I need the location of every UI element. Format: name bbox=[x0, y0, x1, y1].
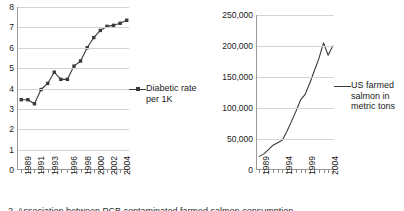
x-tick-label: 1998 bbox=[84, 156, 93, 175]
y-tick-label: 5 bbox=[9, 64, 14, 73]
chart-panel-farmed-salmon: 050,000100,000150,000200,000250,000 1989… bbox=[200, 0, 404, 211]
x-tick bbox=[61, 170, 62, 173]
gridline bbox=[257, 139, 334, 140]
x-tick-label: 1993 bbox=[51, 156, 60, 175]
y-tick-label: 100,000 bbox=[222, 104, 253, 113]
data-point-marker bbox=[66, 78, 69, 81]
y-tick-label: 3 bbox=[9, 105, 14, 114]
y-tick-label: 250,000 bbox=[222, 11, 253, 20]
data-point-marker bbox=[46, 82, 49, 85]
y-tick-label: 50,000 bbox=[227, 135, 253, 144]
y-tick-label: 4 bbox=[9, 84, 14, 93]
data-point-marker bbox=[118, 22, 121, 25]
y-tick-label: 0 bbox=[248, 166, 253, 175]
plot-area-left bbox=[17, 7, 129, 170]
y-tick-label: 150,000 bbox=[222, 73, 253, 82]
data-point-marker bbox=[53, 71, 56, 74]
y-tick-label: 8 bbox=[9, 3, 14, 12]
x-tick-label: 2004 bbox=[331, 156, 340, 175]
x-tick bbox=[48, 170, 49, 173]
data-point-marker bbox=[20, 98, 23, 101]
x-tick bbox=[120, 170, 121, 173]
y-axis-labels-right: 050,000100,000150,000200,000250,000 bbox=[200, 0, 253, 174]
x-tick bbox=[296, 170, 297, 173]
data-point-marker bbox=[125, 19, 128, 22]
x-tick-label: 2004 bbox=[123, 156, 132, 175]
dual-line-chart-figure: 012345678 198919911993199619982000200220… bbox=[0, 0, 404, 211]
gridline bbox=[18, 150, 129, 151]
gridline bbox=[257, 108, 334, 109]
gridline bbox=[18, 89, 129, 90]
legend-label-left: Diabetic rate per 1K bbox=[146, 83, 200, 104]
x-tick bbox=[301, 170, 302, 173]
legend-label-right: US farmed salmon in metric tons bbox=[351, 80, 404, 112]
x-tick bbox=[273, 170, 274, 173]
legend-left: Diabetic rate per 1K bbox=[129, 83, 200, 104]
x-tick bbox=[81, 170, 82, 173]
y-axis-labels-left: 012345678 bbox=[0, 0, 14, 174]
y-tick-label: 7 bbox=[9, 23, 14, 32]
x-tick bbox=[94, 170, 95, 173]
x-tick bbox=[324, 170, 325, 173]
gridline bbox=[18, 129, 129, 130]
legend-line-icon-right bbox=[334, 82, 351, 92]
data-point-marker bbox=[79, 59, 82, 62]
gridline bbox=[18, 68, 129, 69]
y-tick-label: 200,000 bbox=[222, 42, 253, 51]
y-tick-label: 6 bbox=[9, 44, 14, 53]
x-tick bbox=[107, 170, 108, 173]
data-point-marker bbox=[99, 29, 102, 32]
gridline bbox=[18, 27, 129, 28]
figure-caption: 2. Association between PCB contaminated … bbox=[8, 206, 404, 211]
x-tick-label: 2000 bbox=[97, 156, 106, 175]
data-point-marker bbox=[33, 102, 36, 105]
x-tick-label: 1991 bbox=[37, 156, 46, 175]
y-tick-label: 1 bbox=[9, 145, 14, 154]
x-tick-label: 1989 bbox=[24, 156, 33, 175]
y-tick-label: 2 bbox=[9, 125, 14, 134]
x-tick-label: 2002 bbox=[110, 156, 119, 175]
legend-right: US farmed salmon in metric tons bbox=[334, 80, 404, 112]
x-tick-label: 1996 bbox=[70, 156, 79, 175]
x-tick bbox=[328, 170, 329, 173]
gridline bbox=[18, 7, 129, 8]
gridline bbox=[257, 15, 334, 16]
x-tick-label: 1999 bbox=[308, 156, 317, 175]
gridline bbox=[18, 109, 129, 110]
gridline bbox=[257, 46, 334, 47]
series-path bbox=[21, 20, 126, 104]
x-tick-label: 1989 bbox=[262, 156, 271, 175]
y-tick-label: 0 bbox=[9, 166, 14, 175]
gridline bbox=[18, 48, 129, 49]
legend-marker-icon-left bbox=[129, 85, 146, 95]
data-point-marker bbox=[26, 98, 29, 101]
data-point-marker bbox=[92, 36, 95, 39]
data-point-marker bbox=[59, 78, 62, 81]
x-tick bbox=[278, 170, 279, 173]
plot-area-right bbox=[256, 15, 334, 170]
x-tick bbox=[319, 170, 320, 173]
chart-panel-diabetic-rate: 012345678 198919911993199619982000200220… bbox=[0, 0, 200, 211]
x-tick-label: 1994 bbox=[285, 156, 294, 175]
gridline bbox=[257, 77, 334, 78]
series-farmed-salmon bbox=[257, 15, 335, 170]
